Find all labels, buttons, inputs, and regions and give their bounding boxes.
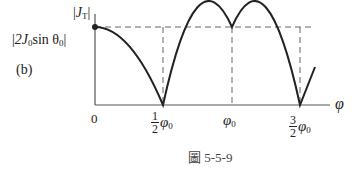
peak-value-label: |2J0sin θ0| — [12, 33, 66, 48]
panel-label: (b) — [16, 63, 32, 77]
tick-half-phi0: 12 φ0 — [151, 110, 173, 135]
jt-curve — [95, 1, 315, 105]
origin-label: 0 — [91, 112, 98, 125]
plot-svg — [0, 0, 358, 170]
tick-three-half-phi0: 32 φ0 — [289, 114, 311, 139]
start-point — [92, 24, 98, 30]
y-axis-label: |JT| — [73, 6, 90, 21]
x-axis-label: φ — [335, 96, 344, 112]
figure-caption: 圖 5-5-9 — [188, 151, 232, 164]
figure: |JT| |2J0sin θ0| (b) φ 0 12 φ0 φ0 32 φ0 … — [0, 0, 358, 170]
tick-phi0: φ0 — [222, 112, 236, 129]
